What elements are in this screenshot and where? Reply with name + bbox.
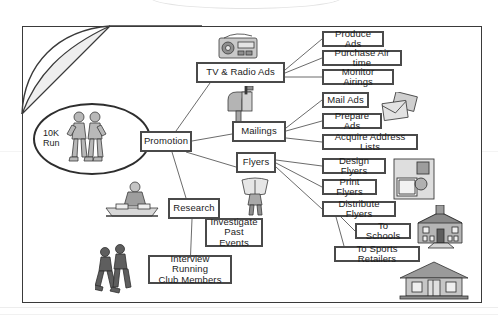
node-purchase-air-time[interactable]: Purchase Air time: [322, 50, 402, 66]
node-print-flyers[interactable]: Print Flyers: [322, 179, 377, 195]
node-to-sports-retailers[interactable]: To Sports Retailers: [334, 246, 420, 262]
node-prepare-ads[interactable]: Prepare Ads: [322, 113, 382, 129]
root-node-label: 10K Run: [43, 128, 77, 148]
scan-page-edge-bottom-1: [0, 307, 498, 308]
node-investigate-past-events[interactable]: Investigate Past Events: [205, 218, 263, 247]
node-promotion[interactable]: Promotion: [140, 131, 192, 152]
node-distribute-flyers[interactable]: Distribute Flyers: [322, 201, 396, 217]
node-mail-ads[interactable]: Mail Ads: [322, 92, 369, 108]
node-monitor-airings[interactable]: Monitor Airings: [322, 69, 394, 85]
node-acquire-address-lists[interactable]: Acquire Address Lists: [322, 134, 418, 150]
node-tv-radio-ads[interactable]: TV & Radio Ads: [196, 62, 285, 83]
scan-page-edge-bottom-2: [0, 314, 498, 315]
node-mailings[interactable]: Mailings: [232, 121, 286, 142]
node-to-schools[interactable]: To Schools: [355, 223, 411, 239]
node-flyers[interactable]: Flyers: [236, 152, 276, 173]
node-produce-ads[interactable]: Produce Ads: [322, 31, 384, 47]
screenshot-canvas: 10K Run: [0, 0, 498, 321]
node-design-flyers[interactable]: Design Flyers: [322, 158, 386, 174]
node-interview-running-club-members[interactable]: Interview Running Club Members: [148, 255, 232, 284]
